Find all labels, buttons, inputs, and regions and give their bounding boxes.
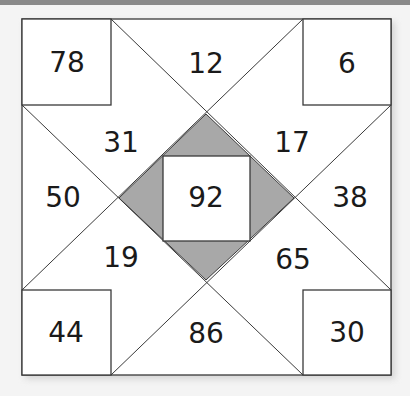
number-upper-left-inner: 31	[103, 126, 139, 159]
number-bottom-right: 30	[329, 316, 365, 349]
number-upper-right-inner: 17	[274, 126, 310, 159]
number-top-right: 6	[338, 47, 356, 80]
number-middle-right: 38	[332, 181, 368, 214]
number-bottom-middle: 86	[188, 317, 224, 350]
number-top-left: 78	[49, 46, 85, 79]
number-top-middle: 12	[188, 47, 224, 80]
number-bottom-left: 44	[48, 316, 84, 349]
number-center: 92	[188, 181, 224, 214]
number-quilt-puzzle: 78 12 6 31 17 50 92 38 19 65 44 86 30	[0, 0, 410, 396]
number-lower-right-inner: 65	[275, 243, 311, 276]
number-lower-left-inner: 19	[103, 241, 139, 274]
number-middle-left: 50	[45, 181, 81, 214]
